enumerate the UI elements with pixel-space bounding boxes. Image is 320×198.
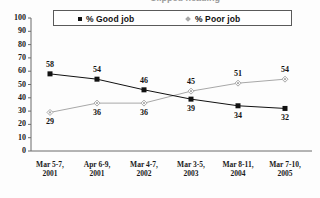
y-axis-tick-label: 70 (2, 53, 26, 62)
chart-container: Clipped heading % Good job % Poor job 10… (0, 0, 320, 198)
data-label-poor-job: 29 (37, 117, 63, 126)
y-axis-tick-label: 20 (2, 119, 26, 128)
y-axis-tick-label: 50 (2, 80, 26, 89)
data-label-good-job: 39 (178, 104, 204, 113)
axis-lines (31, 18, 312, 151)
data-label-poor-job: 51 (225, 69, 251, 78)
data-label-good-job: 54 (84, 65, 110, 74)
y-axis-tick-label: 100 (2, 13, 26, 22)
y-axis-tick-label: 80 (2, 40, 26, 49)
y-axis-tick-label: 30 (2, 106, 26, 115)
y-axis-tick-label: 90 (2, 26, 26, 35)
data-label-poor-job: 36 (131, 108, 157, 117)
y-axis-tick-label: 10 (2, 133, 26, 142)
y-axis-tick-label: 0 (2, 146, 26, 155)
x-axis-tick-label: Mar 7-10,2005 (255, 160, 315, 178)
data-label-good-job: 46 (131, 76, 157, 85)
data-label-poor-job: 45 (178, 77, 204, 86)
series-good-job (48, 71, 288, 111)
data-label-good-job: 58 (37, 60, 63, 69)
data-label-poor-job: 54 (272, 65, 298, 74)
y-axis-tick-label: 40 (2, 93, 26, 102)
data-label-good-job: 32 (272, 113, 298, 122)
y-axis-tick-label: 60 (2, 66, 26, 75)
data-label-poor-job: 36 (84, 108, 110, 117)
data-label-good-job: 34 (225, 111, 251, 120)
